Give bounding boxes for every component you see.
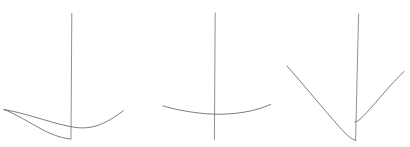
sketch-figure-right [287, 14, 404, 141]
sketch-canvas [0, 0, 410, 147]
middle-shallow-curve [163, 105, 271, 115]
sketch-figure-left [4, 14, 124, 140]
right-v-left-branch-curve [287, 66, 356, 141]
sketch-figure-middle [163, 13, 271, 140]
sketch-page [0, 0, 410, 147]
middle-vertical-axis-line [214, 13, 215, 140]
left-vertical-axis-line [71, 14, 72, 139]
right-v-right-branch-curve [355, 72, 404, 123]
